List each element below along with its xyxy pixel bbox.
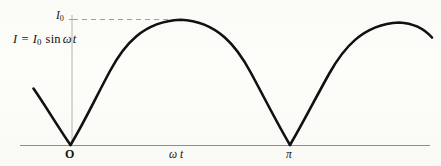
equation-sin-function: sin — [46, 32, 61, 46]
pi-symbol: π — [286, 148, 292, 160]
equation-equals: = — [21, 32, 28, 46]
curve-left-tail-segment — [34, 89, 71, 146]
x-axis-tick-label-pi: π — [286, 149, 292, 161]
equation-current-symbol: I — [13, 32, 17, 46]
y-axis-value-label-i0: I0 — [56, 10, 64, 23]
plot-canvas — [0, 0, 441, 166]
equation-time-symbol: t — [73, 32, 77, 46]
x-axis-label-omega-t: ω t — [169, 149, 183, 161]
curve-second-hump — [290, 23, 432, 146]
curve-first-hump — [71, 20, 291, 145]
figure-rectified-sine-wave: I=I0sinωt I0 O ω t π — [0, 0, 441, 166]
equation-omega-symbol: ω — [63, 32, 72, 46]
i0-subscript: 0 — [60, 14, 64, 23]
equation-annotation: I=I0sinωt — [13, 33, 76, 47]
origin-label-o: O — [65, 148, 74, 160]
omega-t-text: ω t — [169, 148, 183, 160]
equation-amplitude-subscript: 0 — [37, 37, 42, 47]
